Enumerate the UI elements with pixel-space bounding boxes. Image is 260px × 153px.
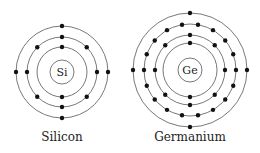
diagram: SiGe Silicon Germanium [0, 0, 260, 153]
svg-text:Si: Si [56, 66, 68, 79]
svg-text:Ge: Ge [182, 64, 197, 77]
silicon-atom: Si [14, 24, 110, 120]
germanium-atom: Ge [131, 11, 249, 129]
germanium-label: Germanium [145, 130, 235, 144]
silicon-label: Silicon [22, 130, 102, 144]
